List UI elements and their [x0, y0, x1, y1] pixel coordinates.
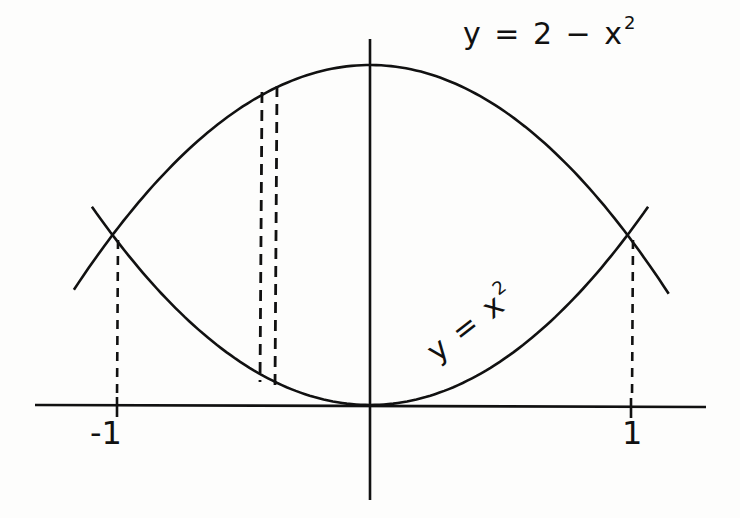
tick-label-pos-1: 1	[622, 417, 642, 449]
dashed-drop-neg-1	[117, 240, 118, 400]
label-eq: =	[494, 16, 521, 51]
dashed-drop-pos-1	[632, 240, 633, 400]
strip-left-edge	[260, 92, 262, 382]
tick-label-neg-1: -1	[90, 417, 122, 449]
label-var: y	[463, 16, 483, 51]
upper-curve-label: y = 2 − x2	[463, 18, 638, 49]
label-rhs: 2 − x	[533, 16, 624, 51]
strip-right-edge	[275, 86, 277, 386]
label-exponent: 2	[624, 12, 637, 33]
diagram-canvas: y = 2 − x2 y = x2 -1 1	[0, 0, 740, 518]
